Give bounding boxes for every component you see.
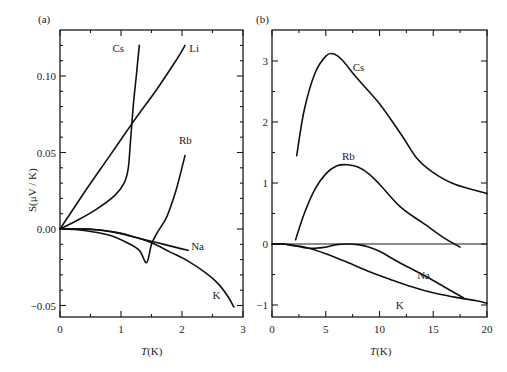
series-cs-line (60, 45, 139, 229)
x-tick-label: 0 (269, 323, 275, 335)
series-rb-label: Rb (179, 134, 192, 146)
series-li-line (60, 45, 185, 229)
series-na-line (60, 229, 188, 251)
y-tick-label: −0.05 (31, 300, 57, 312)
seebeck-chart: (a) 0123−0.050.000.050.10 CsLiRbNaK S(μV… (0, 0, 507, 372)
y-tick-label: −1 (256, 299, 268, 311)
y-tick-label: 1 (263, 177, 269, 189)
panel-b-label: (b) (256, 13, 269, 26)
y-tick-label: 0.05 (37, 147, 57, 159)
panel-a-ylabel: S(μV / K) (26, 168, 39, 212)
y-tick-label: 0.10 (37, 70, 57, 82)
y-tick-label: 0.00 (37, 223, 57, 235)
series-rb-line (296, 165, 461, 248)
x-tick-label: 2 (179, 323, 185, 335)
panel-b: (b) 05101520−10123 CsRbNaK T(K) (256, 13, 493, 358)
panel-a-frame (60, 30, 243, 317)
panel-b-series-labels: CsRbNaK (342, 61, 430, 311)
series-k-line (272, 244, 487, 303)
panel-b-frame (272, 30, 487, 317)
x-tick-label: 1 (118, 323, 124, 335)
series-k-label: K (213, 289, 221, 301)
figure-caption-cutoff (40, 362, 500, 372)
series-k-label: K (396, 299, 404, 311)
series-cs-label: Cs (353, 61, 365, 73)
x-tick-label: 15 (428, 323, 440, 335)
y-tick-label: 0 (263, 238, 269, 250)
series-rb-line (63, 156, 185, 263)
panel-b-ticks: 05101520−10123 (256, 30, 493, 335)
panel-a-series-labels: CsLiRbNaK (112, 42, 220, 300)
x-tick-label: 5 (323, 323, 329, 335)
series-cs-line (297, 53, 487, 193)
x-tick-label: 0 (57, 323, 63, 335)
series-cs-label: Cs (112, 42, 124, 54)
series-li-label: Li (189, 42, 199, 54)
series-na-label: Na (417, 269, 430, 281)
panel-a: (a) 0123−0.050.000.050.10 CsLiRbNaK S(μV… (26, 13, 246, 358)
panel-a-curves (60, 45, 234, 307)
panel-a-label: (a) (38, 13, 51, 26)
panel-a-xlabel: T(K) (141, 345, 163, 358)
panel-b-curves (272, 53, 487, 303)
series-na-label: Na (191, 240, 204, 252)
series-rb-label: Rb (342, 150, 355, 162)
y-tick-label: 3 (263, 55, 269, 67)
x-tick-label: 20 (482, 323, 494, 335)
panel-b-xlabel: T(K) (370, 345, 392, 358)
x-tick-label: 10 (374, 323, 386, 335)
x-tick-label: 3 (240, 323, 246, 335)
y-tick-label: 2 (263, 116, 269, 128)
